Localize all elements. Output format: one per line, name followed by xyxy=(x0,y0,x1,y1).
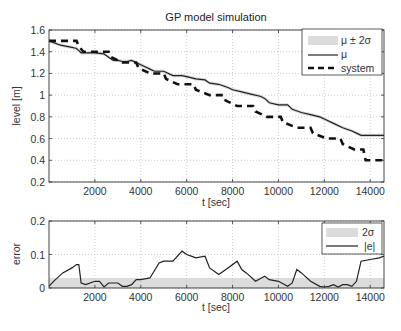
x-tick-label: 12000 xyxy=(310,291,339,303)
y-tick-label: 1.6 xyxy=(30,24,45,36)
x-tick-label: 4000 xyxy=(129,291,153,303)
bottom-x-label: t [sec] xyxy=(202,301,230,313)
legend-2sigma-swatch xyxy=(326,228,358,237)
y-tick-label: 0.8 xyxy=(30,111,45,123)
x-tick-label: 14000 xyxy=(356,185,385,197)
y-tick-label: 0 xyxy=(39,282,45,294)
top-legend: μ ± 2σ μ system xyxy=(302,29,382,75)
legend-mu-label: μ xyxy=(341,48,347,60)
x-tick-label: 4000 xyxy=(129,185,153,197)
y-tick-label: 0.2 xyxy=(30,176,45,188)
x-tick-label: 10000 xyxy=(264,185,293,197)
top-y-label: level [m] xyxy=(10,86,22,125)
top-x-label: t [sec] xyxy=(202,196,230,208)
x-tick-label: 2000 xyxy=(83,185,107,197)
x-tick-label: 2000 xyxy=(83,291,107,303)
figure: GP model simulation 20004000600080001000… xyxy=(0,0,401,331)
legend-2sigma-label: 2σ xyxy=(362,226,375,238)
y-tick-label: 1 xyxy=(39,89,45,101)
legend-band-swatch xyxy=(308,36,338,45)
y-tick-label: 0.2 xyxy=(30,215,45,227)
y-tick-label: 0.4 xyxy=(30,154,45,166)
x-tick-label: 6000 xyxy=(175,291,199,303)
band-area xyxy=(49,278,384,288)
bottom-legend: 2σ |e| xyxy=(322,223,382,254)
y-tick-label: 1.4 xyxy=(30,46,45,58)
y-tick-label: 0.6 xyxy=(30,133,45,145)
x-tick-label: 6000 xyxy=(175,185,199,197)
bottom-y-label: error xyxy=(10,242,22,265)
y-tick-label: 1.2 xyxy=(30,67,45,79)
y-tick-label: 0.1 xyxy=(30,249,45,261)
chart-title: GP model simulation xyxy=(165,11,266,23)
x-tick-label: 14000 xyxy=(356,291,385,303)
legend-system-label: system xyxy=(341,62,375,74)
x-tick-label: 12000 xyxy=(310,185,339,197)
legend-band-label: μ ± 2σ xyxy=(341,34,371,46)
x-tick-label: 10000 xyxy=(264,291,293,303)
legend-abs-error-label: |e| xyxy=(364,240,375,252)
